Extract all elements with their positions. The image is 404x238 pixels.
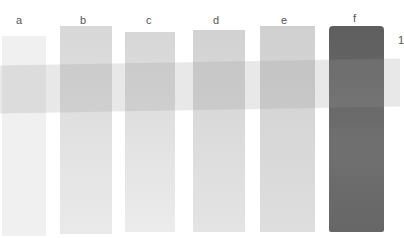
label-d: d	[213, 14, 219, 26]
label-b: b	[80, 14, 86, 26]
swatch-b	[60, 26, 112, 234]
swatch-f	[329, 26, 384, 232]
label-c: c	[146, 14, 152, 26]
label-a: a	[16, 14, 22, 26]
label-e: e	[281, 14, 287, 26]
overlay-band	[0, 59, 400, 114]
swatch-e	[260, 26, 315, 232]
swatch-d	[193, 30, 245, 232]
label-f: f	[353, 12, 356, 24]
label-row-1: 1	[398, 34, 404, 46]
